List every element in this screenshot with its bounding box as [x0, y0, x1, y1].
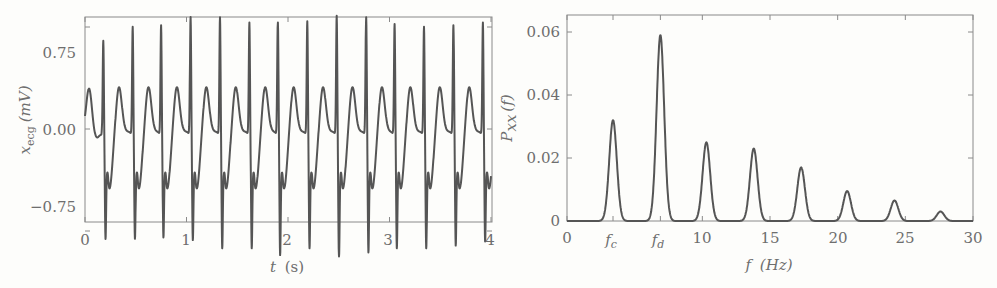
- psd-xtick-label: 30: [963, 229, 982, 247]
- psd-axes-frame: [567, 15, 973, 221]
- psd-trace: [567, 35, 973, 221]
- figure: 0.75 0.00 −0.75 0 1 2 3 4 t (s) xecg(mV)…: [0, 0, 997, 288]
- ecg-xlabel: t (s): [270, 258, 304, 276]
- psd-plot: 0.06 0.04 0.02 0 0 fc fd 10 15 20 25 30 …: [498, 15, 983, 274]
- psd-ytick-label: 0.04: [527, 86, 560, 104]
- ecg-ytick-label: −0.75: [30, 198, 76, 216]
- psd-ytick-label: 0: [550, 212, 560, 230]
- ecg-xtick-label: 0: [80, 231, 90, 249]
- ecg-ylabel: xecg(mV): [16, 85, 37, 154]
- ecg-xtick-label: 2: [282, 231, 292, 249]
- psd-xtick-label: 0: [562, 229, 572, 247]
- ecg-axes-frame: [85, 17, 492, 222]
- psd-xtick-fd: fd: [651, 231, 665, 251]
- psd-ytick-label: 0.02: [527, 149, 560, 167]
- ecg-xtick-label: 1: [181, 231, 191, 249]
- psd-xlabel: f (Hz): [744, 256, 792, 274]
- psd-xtick-label: 15: [760, 229, 779, 247]
- ecg-ytick-label: 0.75: [43, 44, 76, 62]
- psd-xtick-fc: fc: [604, 231, 617, 251]
- ecg-plot: 0.75 0.00 −0.75 0 1 2 3 4 t (s) xecg(mV): [16, 16, 495, 276]
- ecg-ticks: [85, 17, 492, 231]
- psd-xtick-label: 20: [828, 229, 847, 247]
- psd-xtick-label: 25: [895, 229, 914, 247]
- psd-ticks: [567, 15, 973, 221]
- ecg-xtick-label: 4: [485, 231, 495, 249]
- ecg-xtick-label: 3: [383, 231, 393, 249]
- ecg-ytick-label: 0.00: [43, 121, 76, 139]
- psd-xtick-label: 10: [692, 229, 711, 247]
- psd-ytick-label: 0.06: [527, 23, 560, 41]
- psd-ylabel: Pxx(f): [498, 94, 520, 142]
